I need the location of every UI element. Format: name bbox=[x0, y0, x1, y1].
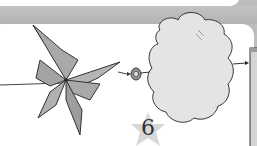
step-number: 6 bbox=[128, 117, 168, 139]
arrow-head-icon bbox=[245, 61, 249, 65]
cloud-to-panel-arrow bbox=[233, 63, 246, 64]
arrow-head-icon bbox=[127, 72, 131, 76]
pinwheel-icon bbox=[33, 25, 120, 135]
spool-icon bbox=[131, 68, 141, 80]
axle-line bbox=[118, 72, 127, 74]
cloud-icon bbox=[148, 13, 234, 123]
side-panel-icon bbox=[250, 48, 257, 146]
